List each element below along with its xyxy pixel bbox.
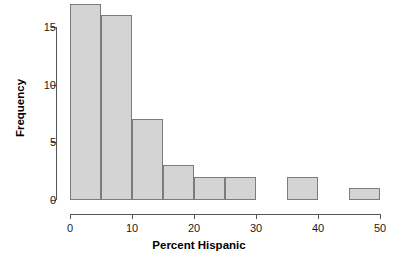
x-axis-tick-label: 40	[312, 222, 324, 234]
x-axis-tick-label: 10	[126, 222, 138, 234]
histogram-bar	[70, 4, 101, 200]
x-axis-line	[70, 214, 380, 215]
histogram-bar	[132, 119, 163, 200]
histogram-bar	[101, 15, 132, 200]
y-axis-title: Frequency	[14, 28, 26, 188]
y-axis-tick-label: 15	[44, 21, 56, 33]
x-axis-tick	[318, 214, 319, 219]
x-axis-tick	[256, 214, 257, 219]
x-axis-tick	[380, 214, 381, 219]
x-axis-tick	[70, 214, 71, 219]
x-axis-tick-label: 50	[374, 222, 386, 234]
y-axis-line	[56, 27, 57, 200]
histogram-bar	[163, 165, 194, 200]
x-axis-tick	[194, 214, 195, 219]
x-axis-tick-label: 20	[188, 222, 200, 234]
histogram-bar	[225, 177, 256, 200]
y-axis-tick-label: 0	[50, 194, 56, 206]
plot-area: 01020304050051015	[0, 0, 398, 267]
x-axis-tick-label: 30	[250, 222, 262, 234]
x-axis-title: Percent Hispanic	[0, 239, 398, 251]
y-axis-tick-label: 5	[50, 136, 56, 148]
y-axis-tick-label: 10	[44, 79, 56, 91]
histogram-bar	[194, 177, 225, 200]
histogram-bar	[287, 177, 318, 200]
histogram-figure: 01020304050051015 Frequency Percent Hisp…	[0, 0, 398, 267]
x-axis-tick-label: 0	[67, 222, 73, 234]
histogram-bar	[349, 188, 380, 200]
x-axis-tick	[132, 214, 133, 219]
